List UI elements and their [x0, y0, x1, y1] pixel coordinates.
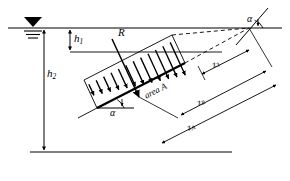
label-h1: h1 [74, 33, 83, 46]
projection-dashed-lines [172, 28, 249, 63]
alpha-bottom-angle-arc [78, 99, 134, 118]
label-resultant-force-R: R [118, 27, 125, 38]
label-h2: h2 [47, 68, 56, 81]
label-alpha-top: α [247, 14, 252, 24]
inclined-plate-surface [97, 63, 185, 108]
label-alpha-bottom: α [110, 108, 115, 118]
z3-dimension-line [198, 50, 249, 80]
resultant-force-arrow-icon [112, 39, 139, 97]
alpha-top-angle-arc [255, 19, 263, 28]
zA-dimension-line [162, 85, 276, 143]
hydrostatic-pressure-diagram: h1 h2 R area A z3 zR zA α α [0, 0, 290, 181]
